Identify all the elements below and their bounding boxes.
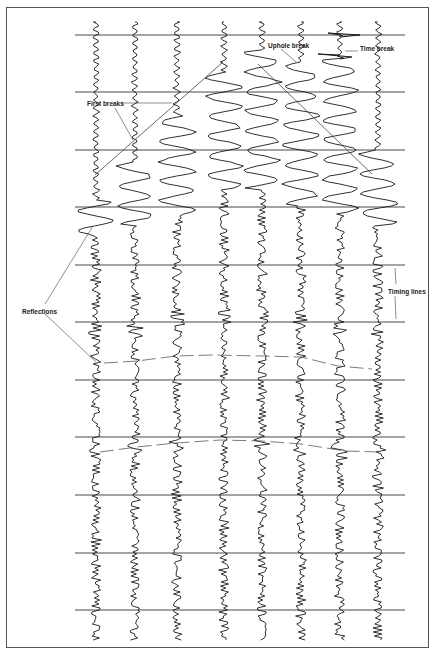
- trace-5: [244, 22, 282, 640]
- seismic-record-plot: [0, 0, 437, 652]
- timing-lines-label: Timing lines: [388, 288, 426, 295]
- first-breaks-label: First breaks: [87, 100, 124, 107]
- trace-6: [282, 22, 320, 640]
- reflections-label: Reflections: [22, 308, 57, 315]
- uphole-break-label: Uphole break: [268, 42, 309, 49]
- trace-4: [205, 22, 243, 640]
- timing-lines: [75, 35, 405, 610]
- trace-2: [116, 22, 151, 640]
- trace-1: [78, 22, 113, 640]
- seismic-traces: [78, 22, 398, 640]
- trace-8: [358, 22, 397, 640]
- time-break-label: Time break: [360, 45, 394, 52]
- trace-7: [322, 22, 359, 640]
